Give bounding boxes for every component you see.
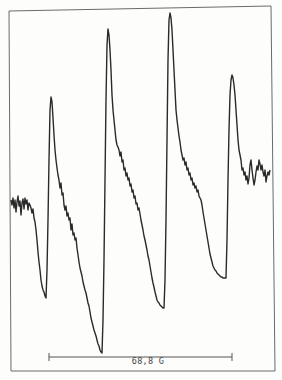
spectrum-trace <box>11 13 270 353</box>
spectrum-figure <box>0 0 282 380</box>
scale-bar-label: 68,8 G <box>118 356 178 366</box>
